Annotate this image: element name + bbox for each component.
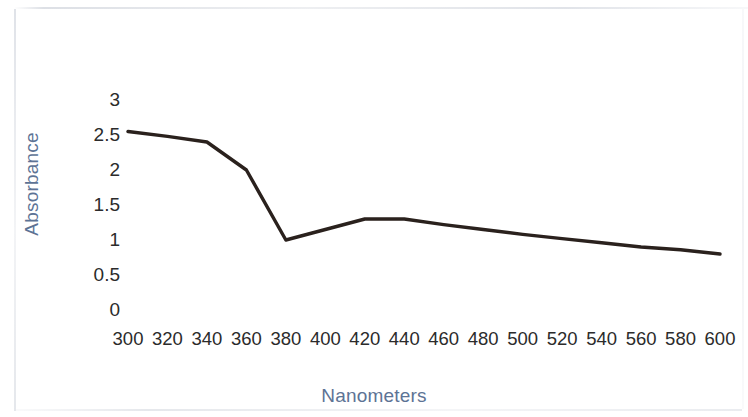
y-axis-tick-label: 0.5 [60, 265, 120, 284]
y-axis-tick-label: 2.5 [60, 125, 120, 144]
y-axis-tick-label: 0 [60, 300, 120, 319]
x-axis-title: Nanometers [0, 385, 748, 407]
y-axis-tick-label: 1 [60, 230, 120, 249]
y-axis-tick-label: 1.5 [60, 195, 120, 214]
x-axis-tick-label: 600 [690, 330, 748, 349]
y-axis-tick-label: 2 [60, 160, 120, 179]
y-axis-tick-label: 3 [60, 90, 120, 109]
absorbance-spectrum-chart: 32.521.510.50 30032034036038040042044046… [0, 0, 748, 417]
x-axis-tick-labels: 3003203403603804004204404604805005205405… [0, 330, 748, 356]
y-axis-title: Absorbance [21, 119, 43, 249]
absorbance-line-series [128, 132, 720, 255]
